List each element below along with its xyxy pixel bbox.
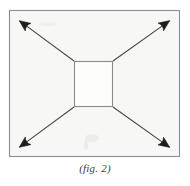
- center-rectangle: [75, 62, 113, 107]
- figure-diagram: [0, 0, 190, 186]
- figure-caption: (fig. 2): [0, 162, 190, 174]
- figure-container: (fig. 2): [0, 0, 190, 186]
